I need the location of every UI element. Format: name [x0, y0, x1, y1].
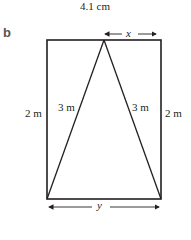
- triangle-right-side: [104, 40, 161, 199]
- triangle-left-side: [47, 40, 104, 199]
- y-label: y: [97, 199, 102, 211]
- triangle-left-label: 3 m: [58, 101, 75, 113]
- rectangle: [47, 40, 161, 199]
- left-side-label: 2 m: [25, 107, 42, 119]
- triangle-right-label: 3 m: [132, 101, 149, 113]
- x-label: x: [126, 27, 131, 39]
- right-side-label: 2 m: [165, 107, 182, 119]
